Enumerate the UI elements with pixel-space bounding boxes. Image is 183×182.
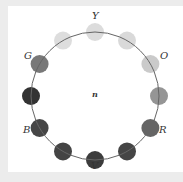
label-r: R	[158, 124, 167, 135]
center-label: n	[92, 89, 98, 99]
color-circle-diagram: Y O R V B G n	[0, 0, 183, 182]
label-b: B	[22, 124, 30, 135]
label-o: O	[160, 50, 168, 61]
label-y: Y	[92, 10, 100, 21]
label-g: G	[24, 50, 32, 61]
